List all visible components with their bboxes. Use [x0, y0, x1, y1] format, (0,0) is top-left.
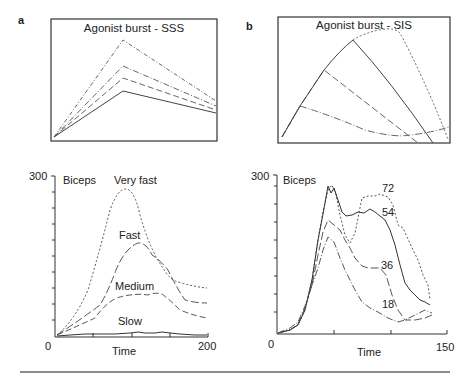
sis-burst-54 — [282, 40, 433, 143]
panel-a-y-zero-label: 0 — [45, 340, 51, 352]
sss-burst-very-fast — [54, 40, 216, 137]
curve-very-fast — [57, 189, 207, 335]
panel-a-top-chart: Agonist burst - SSS — [51, 19, 217, 141]
label-36: 36 — [381, 259, 393, 271]
panel-b-y-zero-label: 0 — [268, 338, 274, 350]
panel-b-x-ticks — [334, 330, 447, 334]
label-slow: Slow — [118, 315, 142, 327]
label-fast: Fast — [119, 229, 140, 241]
panel-a-y-axis-label: Biceps — [63, 174, 97, 186]
sis-burst-18 — [282, 106, 449, 137]
panel-letter-b: b — [246, 20, 253, 32]
panel-b-y-axis-label: Biceps — [283, 174, 317, 186]
figure-canvas: a b Agonist burst - SSS Agonist burst - … — [0, 0, 469, 375]
label-54: 54 — [382, 206, 394, 218]
curve-54 — [278, 186, 430, 333]
panel-letter-a: a — [18, 14, 25, 26]
panel-b-top-chart: Agonist burst - SIS — [278, 17, 450, 143]
panel-b-top-frame — [278, 17, 450, 143]
panel-b-y-max-label: 300 — [251, 170, 269, 182]
sss-burst-slow — [54, 91, 216, 137]
panel-a-top-title: Agonist burst - SSS — [84, 22, 185, 34]
label-medium: Medium — [115, 280, 154, 292]
label-18: 18 — [382, 298, 394, 310]
panel-b-x-axis-label: Time — [357, 346, 381, 358]
curve-72 — [278, 185, 430, 333]
panel-a-y-max-label: 300 — [29, 170, 47, 182]
label-72: 72 — [382, 182, 394, 194]
curve-36 — [278, 220, 432, 333]
label-very-fast: Very fast — [114, 174, 157, 186]
panel-b-x-max-label: 150 — [436, 341, 454, 353]
panel-a-x-max-label: 200 — [198, 340, 216, 352]
sis-burst-72 — [353, 29, 448, 139]
panel-b-bottom-chart: 300 0 150 Time Biceps 72 54 36 18 — [251, 170, 454, 358]
panel-a-x-axis-label: Time — [112, 345, 136, 357]
panel-b-top-title: Agonist burst - SIS — [316, 19, 412, 31]
panel-a-bottom-chart: 300 0 200 Time Biceps Very fast Fast Med… — [29, 170, 216, 357]
